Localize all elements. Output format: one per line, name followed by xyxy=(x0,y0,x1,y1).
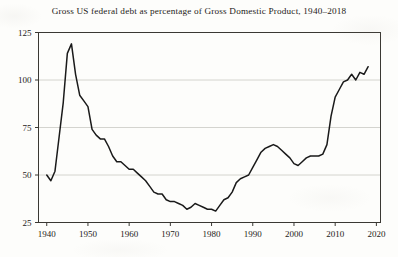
x-tick-label: 1950 xyxy=(79,229,98,239)
x-tick-label: 2020 xyxy=(367,229,386,239)
y-tick-label: 125 xyxy=(18,28,32,38)
x-tick-label: 1960 xyxy=(120,229,139,239)
y-tick-label: 75 xyxy=(23,123,33,133)
x-tick-label: 1940 xyxy=(38,229,57,239)
x-tick-label: 1990 xyxy=(244,229,263,239)
x-tick-label: 2000 xyxy=(285,229,304,239)
x-axis-tick-labels: 194019501960197019801990200020102020 xyxy=(38,229,386,239)
y-tick-label: 25 xyxy=(23,218,33,228)
y-tick-label: 100 xyxy=(18,75,32,85)
y-axis-tick-labels: 255075100125 xyxy=(18,28,32,228)
x-tick-label: 1980 xyxy=(203,229,222,239)
y-axis-ticks xyxy=(35,33,39,223)
x-axis-ticks xyxy=(47,223,377,227)
chart-figure: Gross US federal debt as percentage of G… xyxy=(0,0,398,257)
y-tick-label: 50 xyxy=(23,170,33,180)
line-chart-plot: 194019501960197019801990200020102020 255… xyxy=(0,0,398,257)
x-tick-label: 1970 xyxy=(161,229,180,239)
x-tick-label: 2010 xyxy=(326,229,345,239)
